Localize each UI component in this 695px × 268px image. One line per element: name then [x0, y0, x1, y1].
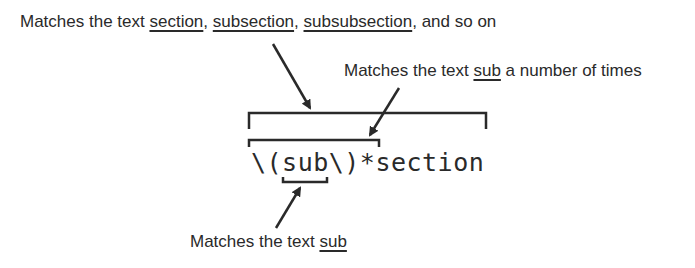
diagram-lines	[0, 0, 695, 268]
underlined-term-subsection: subsection	[213, 12, 294, 31]
arrow-repeated-group	[370, 88, 399, 135]
bracket-repeated-group	[249, 140, 379, 147]
bracket-literal-sub	[283, 177, 327, 182]
separator: ,	[203, 12, 212, 31]
underlined-term-sub: sub	[319, 232, 346, 251]
annotation-prefix: Matches the text	[344, 61, 473, 80]
suffix: a number of times	[501, 61, 642, 80]
bracket-whole-expression	[249, 113, 486, 129]
annotation-literal-sub: Matches the text sub	[190, 233, 347, 250]
suffix: , and so on	[412, 12, 496, 31]
annotation-prefix: Matches the text	[20, 12, 149, 31]
arrow-literal-sub	[276, 188, 300, 228]
underlined-term-section: section	[149, 12, 203, 31]
regex-expression: \(sub\)*section	[251, 150, 484, 175]
annotation-whole-expression: Matches the text section, subsection, su…	[20, 13, 496, 30]
separator: ,	[294, 12, 303, 31]
underlined-term-sub: sub	[473, 61, 500, 80]
arrow-whole-expression	[273, 44, 310, 108]
underlined-term-subsubsection: subsubsection	[304, 12, 413, 31]
annotation-prefix: Matches the text	[190, 232, 319, 251]
annotation-repeated-group: Matches the text sub a number of times	[344, 62, 642, 79]
